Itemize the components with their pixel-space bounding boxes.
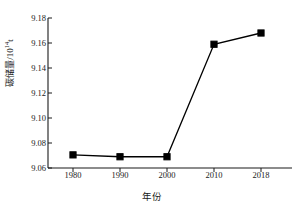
data-point-marker [117,154,123,160]
plot-area [0,0,303,209]
data-point-marker [70,152,76,158]
x-axis-title: 年份 [0,189,303,203]
chart-container: 碳储量/1014t 9.069.089.109.129.149.169.18 1… [0,0,303,209]
data-point-marker [258,30,264,36]
data-point-marker [164,154,170,160]
data-point-markers [70,30,264,160]
axes-group [48,18,292,168]
data-point-marker [211,41,217,47]
data-series-line [73,33,261,157]
